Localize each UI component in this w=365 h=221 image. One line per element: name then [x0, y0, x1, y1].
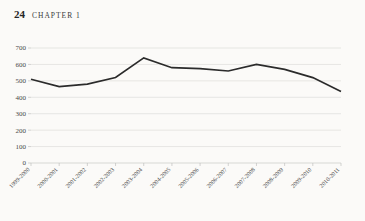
y-axis-tick-label: 600 — [16, 61, 27, 69]
x-axis-tick-label: 2008-2009 — [262, 166, 285, 189]
chart-series-group — [31, 58, 341, 92]
page-folio-number: 24 — [14, 8, 25, 20]
x-axis-tick-label: 2003-2004 — [121, 166, 144, 189]
chapter-title-label: CHAPTER 1 — [32, 11, 81, 20]
x-axis-tick-label: 2007-2008 — [234, 166, 257, 189]
chart-gridlines — [31, 48, 341, 163]
x-axis-tick-label: 2009-2010 — [290, 166, 313, 189]
chart-y-axis-labels: 0100200300400500600700 — [16, 44, 27, 167]
x-axis-tick-label: 1999-2000 — [8, 166, 31, 189]
y-axis-tick-label: 200 — [16, 127, 27, 135]
y-axis-tick-label: 300 — [16, 110, 27, 118]
data-line-1 — [31, 58, 341, 92]
running-head: 24 CHAPTER 1 — [14, 8, 81, 20]
y-axis-tick-label: 700 — [16, 44, 27, 52]
x-axis-tick-label: 2002-2003 — [93, 166, 116, 189]
x-axis-tick-label: 2005-2006 — [177, 166, 200, 189]
figure-line-chart: 0100200300400500600700 1999-20002000-200… — [0, 34, 365, 221]
x-axis-tick-label: 2001-2002 — [64, 166, 87, 189]
y-axis-tick-label: 400 — [16, 94, 27, 102]
y-axis-tick-label: 500 — [16, 77, 27, 85]
x-axis-tick-label: 2010-2011 — [318, 166, 340, 188]
y-axis-tick-label: 100 — [16, 143, 27, 151]
book-page: 24 CHAPTER 1 0100200300400500600700 1999… — [0, 0, 365, 221]
chart-x-axis-labels: 1999-20002000-20012001-20022002-20032003… — [8, 166, 341, 189]
chart-y-tickmarks — [28, 48, 31, 163]
chart-x-tickmarks — [31, 163, 341, 166]
x-axis-tick-label: 2006-2007 — [205, 166, 228, 189]
line-chart-svg: 0100200300400500600700 1999-20002000-200… — [0, 34, 365, 221]
x-axis-tick-label: 2004-2005 — [149, 166, 172, 189]
x-axis-tick-label: 2000-2001 — [36, 166, 59, 189]
